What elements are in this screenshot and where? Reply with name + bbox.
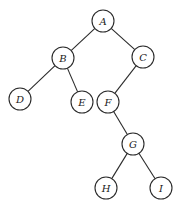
node-a: A [92,10,114,32]
tree-nodes: ABCDEFGHI [9,10,172,199]
edge-g-h [112,153,127,178]
node-label: G [129,139,137,150]
node-g: G [122,133,144,155]
edge-a-c [111,28,135,49]
edge-c-f [115,66,136,94]
edge-f-g [114,111,128,134]
node-label: C [139,52,147,63]
node-label: F [104,97,113,108]
node-h: H [95,177,117,199]
node-f: F [97,91,119,113]
node-i: I [150,177,172,199]
node-c: C [132,46,154,68]
node-label: B [58,53,66,64]
node-label: A [98,16,106,27]
node-label: D [15,94,24,105]
node-b: B [52,47,74,69]
edge-a-b [71,28,95,50]
edge-b-d [28,66,55,92]
edge-g-i [139,153,155,178]
edge-b-e [67,68,77,92]
node-e: E [71,91,93,113]
node-label: H [101,183,111,194]
binary-tree-diagram: ABCDEFGHI [0,0,174,211]
node-d: D [9,88,31,110]
node-label: E [77,97,86,108]
